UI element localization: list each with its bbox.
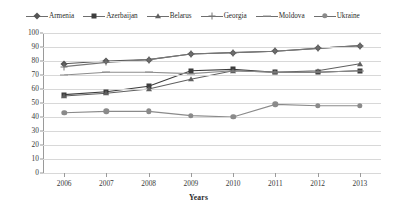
gridline — [43, 47, 381, 48]
dash-marker-icon — [187, 73, 195, 74]
gridline — [43, 33, 381, 34]
dash-marker-icon — [356, 70, 364, 71]
cross-marker-icon — [201, 11, 223, 21]
legend-item-ukraine[interactable]: Ukraine — [314, 11, 360, 21]
dash-marker-icon — [229, 70, 237, 71]
y-tick-mark — [40, 103, 43, 104]
y-tick-mark — [40, 159, 43, 160]
x-axis-tick-label: 2006 — [57, 179, 72, 188]
gridline — [43, 173, 381, 174]
cross-marker-icon — [314, 45, 321, 52]
legend-item-belarus[interactable]: Belarus — [147, 11, 192, 21]
legend-item-moldova[interactable]: Moldova — [256, 11, 305, 21]
dash-marker-icon — [145, 72, 153, 73]
x-tick-mark — [318, 173, 319, 177]
y-tick-mark — [40, 61, 43, 62]
y-axis-tick-label: 0 — [35, 169, 39, 177]
y-tick-mark — [40, 89, 43, 90]
y-axis-tick-label: 50 — [32, 99, 39, 107]
x-axis-title: Years — [0, 193, 397, 202]
plot-area: 0102030405060708090100200620072008200920… — [43, 33, 381, 173]
x-tick-mark — [106, 173, 107, 177]
square-marker-icon — [83, 11, 105, 21]
triangle-marker-icon — [357, 61, 363, 66]
triangle-marker-icon — [146, 86, 152, 91]
y-axis-tick-label: 30 — [32, 127, 39, 135]
legend-item-label: Armenia — [49, 12, 74, 20]
y-axis-tick-label: 80 — [32, 57, 39, 65]
y-axis-tick-label: 70 — [32, 71, 39, 79]
x-tick-mark — [191, 173, 192, 177]
legend-item-azerbaijan[interactable]: Azerbaijan — [83, 11, 138, 21]
gridline — [43, 117, 381, 118]
y-axis-tick-label: 100 — [28, 29, 39, 37]
y-axis-tick-label: 10 — [32, 155, 39, 163]
cross-marker-icon — [187, 51, 194, 58]
dash-marker-icon — [314, 72, 322, 73]
gridline — [43, 131, 381, 132]
y-tick-mark — [40, 131, 43, 132]
x-tick-mark — [64, 173, 65, 177]
legend-item-label: Belarus — [170, 12, 192, 20]
diamond-marker-icon — [26, 11, 48, 21]
gridline — [43, 89, 381, 90]
y-axis-tick-label: 60 — [32, 85, 39, 93]
legend-item-label: Moldova — [279, 12, 305, 20]
x-tick-mark — [149, 173, 150, 177]
legend-item-armenia[interactable]: Armenia — [26, 11, 74, 21]
x-tick-mark — [360, 173, 361, 177]
chart-legend: ArmeniaAzerbaijanBelarusGeorgiaMoldovaUk… — [26, 9, 376, 23]
cross-marker-icon — [230, 49, 237, 56]
y-tick-mark — [40, 173, 43, 174]
triangle-marker-icon — [188, 76, 194, 81]
triangle-marker-icon — [103, 90, 109, 95]
gridline — [43, 145, 381, 146]
gridline — [43, 75, 381, 76]
x-axis-tick-label: 2012 — [310, 179, 325, 188]
y-tick-mark — [40, 47, 43, 48]
dash-marker-icon — [271, 72, 279, 73]
cross-marker-icon — [61, 63, 68, 70]
circle-marker-icon — [314, 11, 336, 21]
x-axis-tick-label: 2008 — [141, 179, 156, 188]
y-axis-tick-label: 40 — [32, 113, 39, 121]
x-tick-mark — [233, 173, 234, 177]
y-axis-tick-label: 90 — [32, 43, 39, 51]
legend-item-label: Ukraine — [337, 12, 360, 20]
line-chart: ArmeniaAzerbaijanBelarusGeorgiaMoldovaUk… — [0, 0, 397, 212]
y-axis-tick-label: 20 — [32, 141, 39, 149]
dash-marker-icon — [60, 75, 68, 76]
cross-marker-icon — [145, 56, 152, 63]
x-axis-tick-label: 2009 — [183, 179, 198, 188]
gridline — [43, 61, 381, 62]
legend-item-georgia[interactable]: Georgia — [201, 11, 247, 21]
dash-marker-icon — [256, 11, 278, 21]
x-axis-tick-label: 2007 — [99, 179, 114, 188]
x-tick-mark — [275, 173, 276, 177]
gridline — [43, 159, 381, 160]
x-axis-tick-label: 2011 — [268, 179, 283, 188]
y-tick-mark — [40, 33, 43, 34]
triangle-marker-icon — [147, 11, 169, 21]
gridline — [43, 103, 381, 104]
dash-marker-icon — [102, 72, 110, 73]
cross-marker-icon — [272, 48, 279, 55]
cross-marker-icon — [103, 59, 110, 66]
cross-marker-icon — [356, 42, 363, 49]
x-axis-tick-label: 2010 — [226, 179, 241, 188]
legend-item-label: Georgia — [224, 12, 247, 20]
y-tick-mark — [40, 75, 43, 76]
x-axis-tick-label: 2013 — [352, 179, 367, 188]
y-tick-mark — [40, 145, 43, 146]
y-tick-mark — [40, 117, 43, 118]
triangle-marker-icon — [61, 93, 67, 98]
legend-item-label: Azerbaijan — [106, 12, 138, 20]
